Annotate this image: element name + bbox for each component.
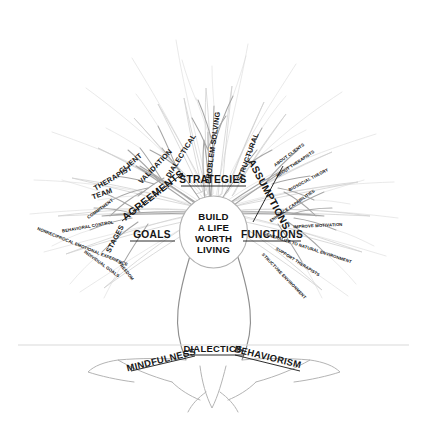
branch-functions[interactable]: FUNCTIONS ENHANCE CAPABILITIES IMPROVE M… [241,188,353,300]
sub-label-improve-motivation[interactable]: IMPROVE MOTIVATION [293,222,342,230]
core-oval: BUILD A LIFE WORTH LIVING [195,211,232,255]
sub-label-structure-environment[interactable]: STRUCTURE ENVIRONMENT [261,252,308,300]
sub-label-behavioral-control[interactable]: BEHAVIORAL CONTROL [62,219,115,233]
core-line-4: LIVING [197,244,230,255]
dbt-tree-diagram: BUILD A LIFE WORTH LIVING STRATEGIES DIA… [0,0,427,424]
root-label-behaviorism[interactable]: BEHAVIORISM [233,343,302,370]
branch-strategies[interactable]: STRATEGIES DIALECTICAL PROBLEM SOLVING S… [136,111,260,186]
core-line-3: WORTH [195,233,232,244]
core-line-2: A LIFE [198,222,230,233]
core-line-1: BUILD [198,211,228,222]
branch-label-goals[interactable]: GOALS [133,229,171,240]
sub-label-stages[interactable]: STAGES [104,223,126,254]
label-layer: BUILD A LIFE WORTH LIVING STRATEGIES DIA… [0,0,427,424]
root-labels[interactable]: MINDFULNESS DIALECTICS BEHAVIORISM [125,343,302,374]
branch-goals[interactable]: GOALS STAGES COMMITMENT BEHAVIORAL CONTR… [37,198,175,282]
sub-label-commitment[interactable]: COMMITMENT [86,198,114,220]
branch-assumptions[interactable]: ASSUMPTIONS ABOUT CLIENTS ABOUT THERAPIS… [246,142,329,231]
sub-label-biosocial-theory[interactable]: BIOSOCIAL THEORY [288,167,330,192]
sub-label-therapist[interactable]: THERAPIST [92,163,134,192]
